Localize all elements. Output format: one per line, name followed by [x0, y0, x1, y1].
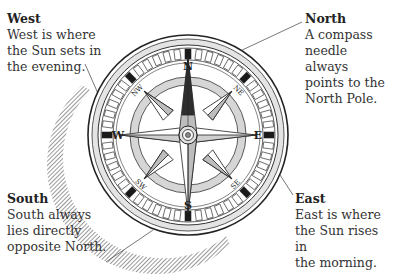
cardinal-e: E — [254, 129, 262, 142]
cardinal-s: S — [184, 199, 192, 212]
cardinal-w: W — [111, 129, 125, 142]
compass-illustration: N E S W NE SE SW NW — [0, 0, 393, 275]
east-leader-line — [280, 175, 293, 195]
north-leader-line — [238, 22, 302, 52]
cardinal-n: N — [183, 60, 193, 73]
